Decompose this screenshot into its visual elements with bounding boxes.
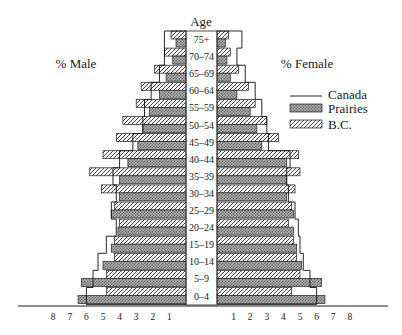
age-label: 45–49 bbox=[189, 137, 214, 148]
bar-prairies-male bbox=[78, 296, 186, 304]
x-tick-right: 1 bbox=[231, 312, 236, 322]
bar-prairies-female bbox=[217, 159, 287, 167]
bar-bc-male bbox=[106, 288, 186, 296]
bar-prairies-female bbox=[217, 296, 325, 304]
x-tick-right: 8 bbox=[347, 312, 352, 322]
age-label: 65–69 bbox=[189, 68, 214, 79]
bar-prairies-male bbox=[176, 39, 186, 47]
bar-prairies-female bbox=[217, 261, 302, 269]
axis-title-age: Age bbox=[190, 14, 212, 29]
age-label: 20–24 bbox=[189, 222, 214, 233]
bar-prairies-female bbox=[217, 90, 237, 98]
bar-bc-male bbox=[123, 117, 186, 125]
bar-prairies-female bbox=[217, 39, 225, 47]
x-tick-right: 4 bbox=[281, 312, 286, 322]
age-label: 5–9 bbox=[194, 273, 209, 284]
bar-prairies-male bbox=[103, 261, 186, 269]
bar-prairies-female bbox=[217, 125, 257, 133]
legend-prairies-swatch bbox=[290, 104, 322, 112]
bar-bc-female bbox=[217, 65, 239, 73]
bar-prairies-male bbox=[118, 227, 186, 235]
bar-bc-male bbox=[115, 253, 186, 261]
bar-prairies-female bbox=[217, 278, 322, 286]
age-label: 75+ bbox=[194, 34, 210, 45]
legend-bc-label: B.C. bbox=[328, 117, 352, 132]
bar-bc-female bbox=[217, 236, 293, 244]
bar-bc-male bbox=[120, 219, 186, 227]
bar-bc-male bbox=[106, 270, 186, 278]
bar-bc-male bbox=[116, 134, 186, 142]
bar-prairies-male bbox=[120, 193, 186, 201]
age-label: 60–64 bbox=[189, 85, 214, 96]
age-label: 0–4 bbox=[194, 291, 209, 302]
x-tick-left: 7 bbox=[67, 312, 72, 322]
bar-prairies-male bbox=[166, 73, 186, 81]
x-tick-left: 2 bbox=[150, 312, 155, 322]
bar-prairies-male bbox=[173, 56, 186, 64]
bar-prairies-male bbox=[111, 244, 186, 252]
age-label: 10–14 bbox=[189, 256, 214, 267]
bar-bc-female bbox=[217, 82, 249, 90]
x-tick-left: 4 bbox=[117, 312, 122, 322]
age-label: 15–19 bbox=[189, 239, 214, 250]
bar-prairies-male bbox=[120, 176, 186, 184]
label-male: % Male bbox=[56, 56, 97, 71]
age-label: 25–29 bbox=[189, 205, 214, 216]
bar-prairies-male bbox=[149, 107, 186, 115]
bar-bc-female bbox=[217, 48, 230, 56]
bar-prairies-female bbox=[217, 193, 287, 201]
bar-prairies-female bbox=[217, 107, 250, 115]
bar-prairies-male bbox=[138, 142, 186, 150]
bar-bc-male bbox=[115, 236, 186, 244]
x-tick-right: 7 bbox=[331, 312, 336, 322]
x-tick-right: 2 bbox=[248, 312, 253, 322]
bar-bc-male bbox=[103, 151, 186, 159]
x-tick-left: 1 bbox=[167, 312, 172, 322]
population-pyramid-chart: Age % Male % Female 75+70–7465–6960–6455… bbox=[0, 0, 402, 335]
bar-bc-female bbox=[217, 202, 292, 210]
bar-bc-female bbox=[217, 31, 229, 39]
age-label: 50–54 bbox=[189, 120, 214, 131]
bar-bc-female bbox=[217, 253, 297, 261]
x-tick-left: 5 bbox=[101, 312, 106, 322]
bar-bc-male bbox=[101, 185, 186, 193]
bar-prairies-male bbox=[81, 278, 186, 286]
x-tick-left: 6 bbox=[84, 312, 89, 322]
label-female: % Female bbox=[281, 56, 334, 71]
age-label: 30–34 bbox=[189, 188, 214, 199]
legend: Canada Prairies B.C. bbox=[290, 87, 368, 132]
x-tick-right: 3 bbox=[264, 312, 269, 322]
legend-canada-label: Canada bbox=[328, 87, 367, 102]
bar-bc-male bbox=[141, 82, 186, 90]
bar-bc-male bbox=[164, 48, 186, 56]
x-axis-ticks: 8765432112345678 bbox=[51, 312, 353, 322]
bar-bc-female bbox=[217, 134, 278, 142]
bar-prairies-male bbox=[159, 90, 186, 98]
bar-bc-female bbox=[217, 151, 298, 159]
bar-bc-male bbox=[171, 31, 186, 39]
bar-prairies-male bbox=[111, 210, 186, 218]
bar-bc-female bbox=[217, 99, 255, 107]
bar-prairies-female bbox=[217, 210, 293, 218]
bar-prairies-female bbox=[217, 142, 262, 150]
bar-prairies-female bbox=[217, 227, 293, 235]
bar-prairies-female bbox=[217, 73, 230, 81]
bar-prairies-female bbox=[217, 56, 227, 64]
bar-prairies-male bbox=[143, 125, 186, 133]
bar-prairies-female bbox=[217, 244, 297, 252]
x-tick-left: 8 bbox=[51, 312, 56, 322]
x-tick-left: 3 bbox=[134, 312, 139, 322]
age-label: 40–44 bbox=[189, 154, 214, 165]
bar-bc-female bbox=[217, 185, 295, 193]
bar-prairies-female bbox=[217, 176, 287, 184]
age-labels: 75+70–7465–6960–6455–5950–5445–4940–4435… bbox=[189, 34, 214, 302]
age-label: 55–59 bbox=[189, 102, 214, 113]
legend-bc-swatch bbox=[290, 120, 322, 128]
bar-bc-female bbox=[217, 270, 300, 278]
age-label: 35–39 bbox=[189, 171, 214, 182]
bar-bc-male bbox=[115, 202, 186, 210]
x-tick-right: 5 bbox=[298, 312, 303, 322]
age-label: 70–74 bbox=[189, 51, 214, 62]
bar-bc-male bbox=[136, 99, 186, 107]
x-tick-right: 6 bbox=[314, 312, 319, 322]
